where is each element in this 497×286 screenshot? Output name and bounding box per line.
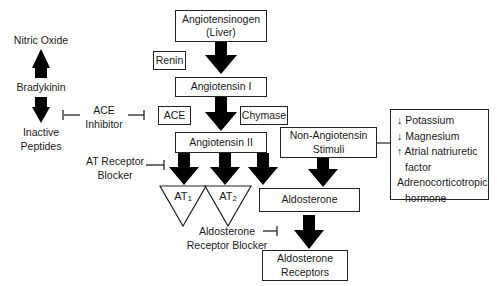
down-arrow-icon: ↓: [397, 130, 402, 142]
arrow-ang1-to-ang2: [205, 97, 237, 131]
non-angiotensin-label: Non-Angiotensin: [290, 129, 368, 142]
angiotensinogen-box: Angiotensinogen (Liver): [175, 10, 267, 42]
arrow-ang2-to-at1: [169, 153, 199, 185]
stimuli-list-box: ↓ Potassium ↓ Magnesium ↑ Atrial natriur…: [390, 109, 489, 200]
up-arrow-icon: ↑: [397, 145, 402, 157]
down-arrow-icon: ↓: [397, 114, 402, 126]
arrow-ang2-to-at2: [210, 153, 240, 185]
angiotensin-2-box: Angiotensin II: [175, 132, 267, 153]
stimuli-label: Stimuli: [313, 143, 345, 156]
stimuli-item: ↓ Potassium: [397, 113, 484, 129]
at1-label: AT1: [168, 190, 198, 202]
chymase-box: Chymase: [240, 106, 288, 125]
ace-box: ACE: [158, 106, 191, 125]
stimuli-item: factor: [397, 160, 484, 176]
aldosterone-label: Aldosterone: [281, 193, 337, 206]
angiotensin-1-box: Angiotensin I: [175, 77, 267, 97]
angiotensinogen-source: (Liver): [206, 26, 236, 39]
bradykinin-label: Bradykinin: [5, 81, 77, 95]
stimuli-item: ↓ Magnesium: [397, 129, 484, 145]
stimuli-item: hormone: [397, 191, 484, 207]
angiotensin-2-label: Angiotensin II: [189, 136, 253, 149]
nitric-oxide-label: Nitric Oxide: [5, 34, 77, 48]
at-receptor-blocker-label: AT Receptor Blocker: [82, 155, 148, 182]
chymase-label: Chymase: [242, 109, 286, 122]
angiotensinogen-label: Angiotensinogen: [182, 13, 260, 26]
at2-label: AT2: [213, 190, 243, 202]
at-blocker-line: [146, 160, 164, 170]
arrow-bradykinin-to-nitric-oxide: [32, 49, 50, 78]
arrow-ang2-to-aldosterone: [248, 153, 278, 185]
inactive-peptides-label: Inactive Peptides: [5, 126, 77, 153]
aldosterone-box: Aldosterone: [259, 188, 360, 212]
stimuli-item: ↑ Atrial natriuretic: [397, 144, 484, 160]
arrow-nonang-to-aldosterone: [308, 158, 338, 187]
aldosterone-receptor-blocker-label: Aldosterone Receptor Blocker: [186, 225, 268, 252]
renin-label: Renin: [156, 54, 183, 67]
ace-inhibitor-label: ACE Inhibitor: [80, 104, 128, 131]
aldosterone-receptors-label: Aldosterone: [277, 252, 333, 265]
aldosterone-receptors-box: Aldosterone Receptors: [262, 250, 348, 281]
stimuli-item: Adrenocorticotropic: [397, 175, 484, 191]
arrow-aldosterone-to-receptors: [294, 215, 324, 249]
arrow-bradykinin-to-inactive: [32, 97, 50, 123]
non-angiotensin-stimuli-box: Non-Angiotensin Stimuli: [280, 127, 377, 158]
renin-box: Renin: [153, 51, 186, 70]
arrow-angiotensinogen-to-ang1: [205, 42, 237, 74]
ace-label: ACE: [164, 109, 186, 122]
angiotensin-1-label: Angiotensin I: [191, 80, 252, 93]
